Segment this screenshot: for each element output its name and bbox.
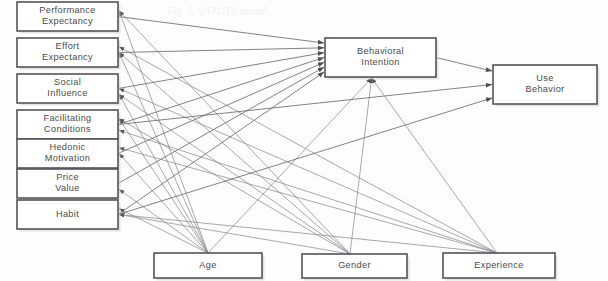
edge-experience-to-effort-expectancy [119, 47, 497, 253]
node-gender: Gender [302, 254, 410, 281]
edge-performance-expectancy-to-behavioral-intention [118, 17, 324, 44]
edge-price-value-to-behavioral-intention [118, 67, 324, 183]
node-behavioral-intention: BehavioralIntention [325, 38, 439, 80]
node-label: Use [536, 73, 553, 83]
node-price-value: PriceValue [17, 169, 121, 201]
node-label: Expectancy [42, 16, 93, 26]
edge-experience-to-behavioral-intention [372, 78, 497, 253]
node-label: Motivation [45, 153, 90, 163]
edge-gender-to-behavioral-intention [350, 78, 372, 254]
node-hedonic-motivation: HedonicMotivation [17, 139, 121, 171]
node-effort-expectancy: EffortExpectancy [17, 38, 121, 70]
node-label: Performance [39, 5, 95, 15]
node-performance-expectancy: PerformanceExpectancy [17, 2, 121, 34]
node-facilitating-conditions: FacilitatingConditions [17, 110, 121, 142]
node-label: Effort [56, 41, 80, 51]
edge-age-to-behavioral-intention [208, 78, 372, 253]
node-layer: PerformanceExpectancyEffortExpectancySoc… [17, 2, 600, 281]
edge-age-to-facilitating-conditions [119, 119, 208, 253]
node-label: Price [56, 172, 79, 182]
edge-social-influence-to-behavioral-intention [118, 53, 324, 89]
node-label: Expectancy [42, 52, 93, 62]
node-age: Age [154, 253, 265, 281]
edge-age-to-habit [119, 209, 208, 253]
node-label: Influence [47, 88, 87, 98]
edge-habit-to-use-behavior [118, 98, 492, 215]
edge-experience-to-social-influence [119, 89, 497, 254]
edge-habit-to-behavioral-intention [118, 72, 324, 215]
node-label: Value [55, 183, 80, 193]
node-label: Experience [474, 260, 523, 270]
node-label: Conditions [44, 124, 91, 134]
edge-behavioral-intention-to-use-behavior [436, 58, 492, 72]
node-label: Facilitating [43, 113, 91, 123]
node-label: Habit [56, 209, 79, 219]
node-label: Hedonic [49, 142, 85, 152]
edge-age-to-effort-expectancy [119, 53, 208, 254]
edge-gender-to-performance-expectancy [119, 11, 350, 254]
edge-experience-to-facilitating-conditions [119, 130, 497, 253]
node-label: Gender [338, 260, 371, 270]
node-label: Behavior [525, 84, 564, 94]
edge-facilitating-conditions-to-use-behavior [118, 85, 492, 125]
edge-effort-expectancy-to-behavioral-intention [118, 48, 324, 53]
node-label: Social [54, 77, 81, 87]
node-habit: Habit [17, 200, 121, 232]
edge-hedonic-motivation-to-behavioral-intention [118, 62, 324, 153]
edge-experience-to-habit [119, 215, 497, 254]
moderator-edge-layer [119, 11, 497, 254]
utaut2-diagram: Fig. 1. UTAUT2 model PerformanceExpectan… [0, 0, 608, 281]
edge-age-to-price-value [119, 189, 208, 253]
node-label: Age [199, 260, 216, 270]
diagram-canvas: PerformanceExpectancyEffortExpectancySoc… [0, 0, 608, 281]
node-use-behavior: UseBehavior [493, 65, 600, 107]
node-label: Behavioral [357, 46, 404, 56]
node-experience: Experience [443, 253, 558, 281]
edge-facilitating-conditions-to-behavioral-intention [118, 58, 324, 125]
node-label: Intention [361, 57, 399, 67]
node-social-influence: SocialInfluence [17, 74, 121, 106]
